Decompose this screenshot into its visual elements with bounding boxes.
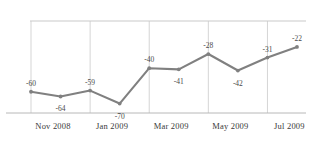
x-axis-tick-label: Mar 2009 <box>154 122 189 131</box>
data-series-line <box>31 47 297 104</box>
data-point-marker <box>147 66 151 70</box>
data-point-marker <box>177 67 181 71</box>
x-axis-tick-label: May 2009 <box>212 122 248 131</box>
data-point-marker <box>88 89 92 93</box>
data-point-markers <box>29 45 299 105</box>
data-value-label: -70 <box>115 112 125 120</box>
x-axis-tick-label: Jan 2009 <box>96 122 128 131</box>
data-value-label: -59 <box>85 78 95 86</box>
data-point-marker <box>29 90 33 94</box>
x-axis-tick-label: Jul 2009 <box>274 122 305 131</box>
data-value-label: -31 <box>262 45 272 53</box>
data-value-label: -42 <box>233 79 243 87</box>
data-point-marker <box>295 45 299 49</box>
data-point-marker <box>206 52 210 56</box>
data-value-label: -28 <box>203 42 213 50</box>
data-point-marker <box>118 102 122 106</box>
data-value-label: -64 <box>56 105 66 113</box>
line-chart: -60-64-59-70-40-41-28-42-31-22 Nov 2008J… <box>0 0 320 145</box>
data-value-label: -22 <box>292 34 302 42</box>
data-value-label: -40 <box>144 56 154 64</box>
data-point-marker <box>266 56 270 60</box>
data-point-marker <box>236 69 240 73</box>
data-point-marker <box>59 95 63 99</box>
data-value-label: -60 <box>26 79 36 87</box>
x-axis-tick-label: Nov 2008 <box>35 122 70 131</box>
data-value-label: -41 <box>174 78 184 86</box>
